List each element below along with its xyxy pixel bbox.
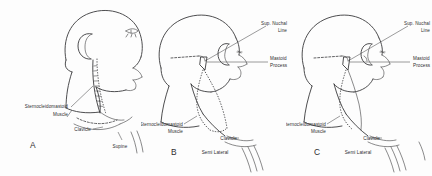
panel-b-position-label: Semi Lateral [202,150,229,155]
panel-c-nuchal-line [314,56,348,61]
panel-c-mastoid [343,57,350,70]
panel-b-chest-lines [242,146,263,172]
panel-c-nuchal-label-line2: Line [421,28,430,33]
panel-a-clavicle-label: Clavicle [74,127,91,132]
panel-a-position-label: Supine [113,144,128,149]
panel-a-ear [78,34,92,59]
panel-a-head-outline [65,10,142,91]
panel-a-letter: A [30,140,36,150]
panel-a-scm-muscle [93,59,106,114]
panel-b-leader-lines [184,26,268,138]
panel-a-supine: Sternocleidomastoid Muscle Clavicle Supi… [0,0,145,176]
panel-b-scm-label-line2: Muscle [168,129,183,134]
panel-c-scm-label-line2: Muscle [311,129,326,134]
panel-b-nuchal-line [171,56,205,61]
panel-c-position-label: Semi Lateral [345,150,372,155]
panel-c-clavicle-label: Clavicle [363,136,380,141]
panel-a-eye [126,29,138,37]
panel-b-scm-muscle [197,70,227,132]
panel-b-mastoid-label-line1: Mastoid [270,56,287,61]
panel-b-clavicle-label: Clavicle [220,136,237,141]
panel-a-scm-label-line1: Sternocleidomastoid [25,104,69,109]
panel-c-head-outline [302,15,390,92]
panel-c-scm-label-line1: Sternocleidomastoid [286,122,326,127]
panel-b-head-outline [159,15,247,92]
panel-c-nuchal-label-line1: Sup. Nuchal [404,21,430,26]
panel-b-scm-label-line1: Sternocleidomastoid [141,122,183,127]
panel-a-scm-hatching [93,66,103,107]
panel-c-semi-lateral: Sup. Nuchal Line Mastoid Process Sternoc… [286,0,432,176]
panel-c-mastoid-label-line2: Process [413,63,431,68]
panel-a-scm-label-line2: Muscle [53,112,68,117]
anatomy-figure: Sternocleidomastoid Muscle Clavicle Supi… [0,0,432,176]
panel-b-mastoid [200,57,207,70]
panel-c-mastoid-label-line1: Mastoid [413,56,430,61]
panel-b-nuchal-label-line1: Sup. Nuchal [261,21,287,26]
panel-b-letter: B [171,147,177,157]
panel-b-semi-lateral: Sup. Nuchal Line Mastoid Process Sternoc… [141,0,289,176]
panel-c-leader-lines [327,26,410,138]
panel-c-letter: C [314,147,320,157]
panel-c-scm-muscle [340,70,362,130]
